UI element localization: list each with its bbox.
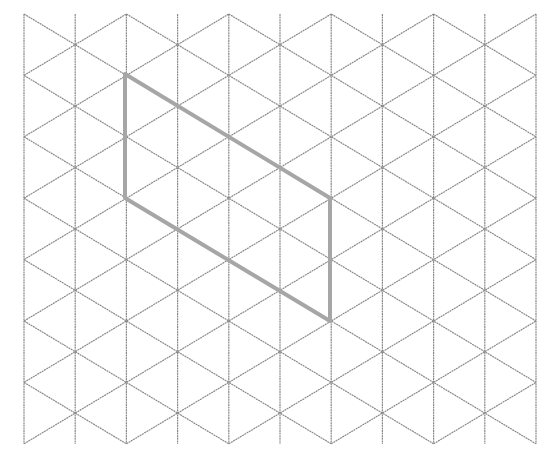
isometric-grid-diagram bbox=[0, 0, 559, 460]
triangle-grid bbox=[24, 14, 536, 444]
